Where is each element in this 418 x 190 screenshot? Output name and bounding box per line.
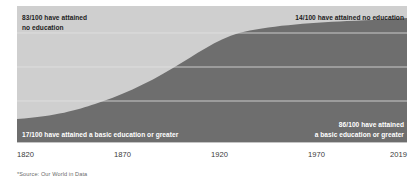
x-tick-1820: 1820	[17, 150, 34, 159]
annotation-basic-education-2019: 86/100 have attained a basic education o…	[315, 120, 404, 140]
chart-figure: 83/100 have attained no education 14/100…	[0, 0, 418, 190]
annotation-basic-education-1820: 17/100 have attained a basic education o…	[22, 130, 178, 140]
x-tick-2019: 2019	[390, 150, 407, 159]
x-tick-1870: 1870	[114, 150, 131, 159]
x-tick-1920: 1920	[211, 150, 228, 159]
x-tick-1970: 1970	[308, 150, 325, 159]
source-footnote: *Source: Our World in Data	[17, 171, 87, 177]
x-axis: 1820 1870 1920 1970 2019	[17, 142, 407, 163]
annotation-no-education-1820: 83/100 have attained no education	[22, 13, 87, 33]
annotation-no-education-2019: 14/100 have attained no education	[295, 13, 404, 23]
